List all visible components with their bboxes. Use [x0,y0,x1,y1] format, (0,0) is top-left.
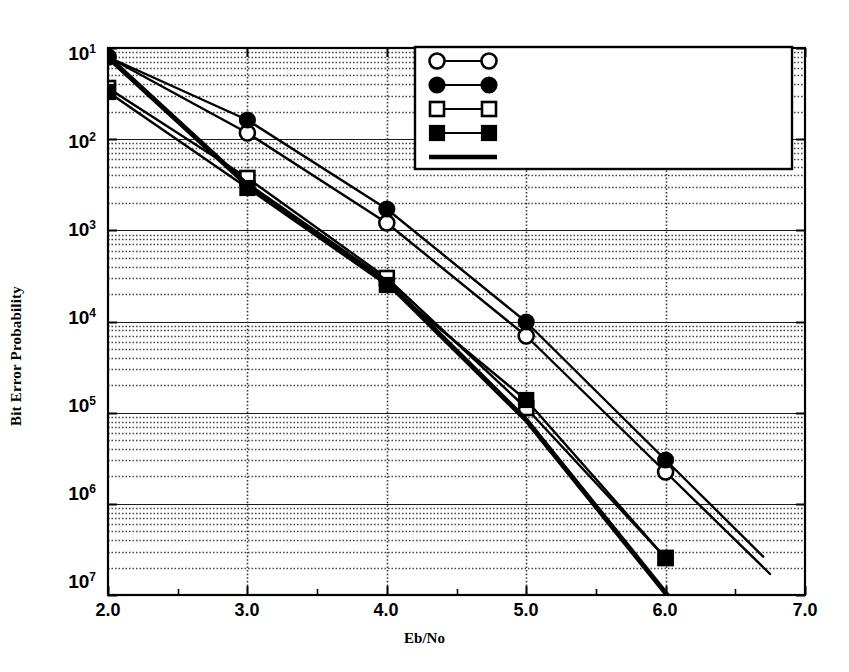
legend-box [415,47,792,169]
bit-error-probability-chart: Bit Error Probability Eb/No 101 102 103 … [0,0,849,672]
plot-area [0,0,849,672]
